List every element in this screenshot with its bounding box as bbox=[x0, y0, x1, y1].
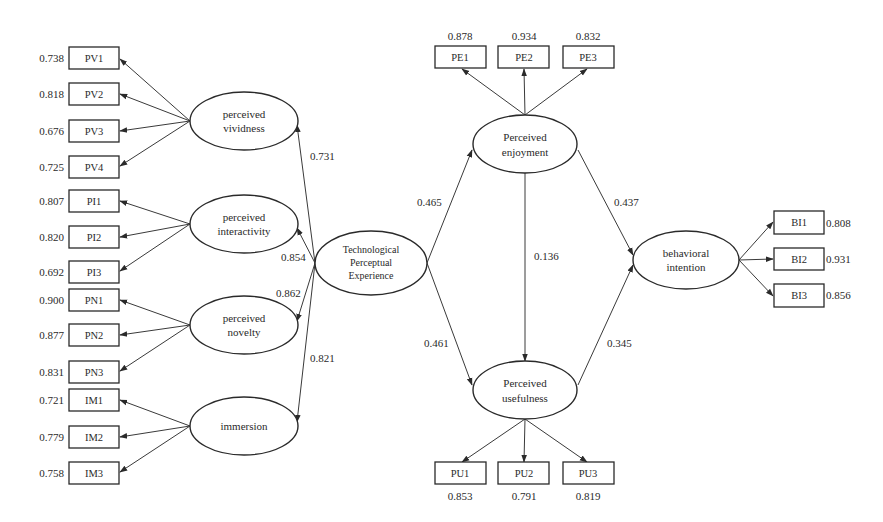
loading-value-bi1: 0.808 bbox=[826, 217, 851, 229]
coef-tpe-im: 0.821 bbox=[310, 352, 335, 364]
loading-value-pn2: 0.877 bbox=[39, 329, 64, 341]
coef-tpe-pu: 0.461 bbox=[424, 337, 449, 349]
coef-pe-pu: 0.136 bbox=[534, 250, 559, 262]
loading-arrow-pe1 bbox=[462, 69, 525, 115]
path-arrow-pu-bi bbox=[578, 265, 633, 385]
latent-label-pv-line2: vividness bbox=[223, 122, 265, 134]
indicator-label-pi2: PI2 bbox=[87, 232, 102, 243]
loading-arrow-im2 bbox=[120, 426, 190, 437]
indicator-label-pn2: PN2 bbox=[85, 330, 104, 341]
coef-tpe-pv: 0.731 bbox=[310, 150, 335, 162]
indicator-label-pv1: PV1 bbox=[85, 53, 104, 64]
latent-label-tpe-line1: Technological bbox=[343, 244, 400, 255]
coef-tpe-pn: 0.862 bbox=[276, 287, 301, 299]
latent-bi: behavioral intention bbox=[633, 231, 739, 289]
loading-value-bi2: 0.931 bbox=[826, 253, 851, 265]
latent-ellipse-pn bbox=[190, 296, 298, 354]
loading-value-pn3: 0.831 bbox=[39, 366, 64, 378]
latent-label-pu-line1: Perceived bbox=[503, 377, 547, 389]
indicators-pv: PV1 0.738 PV2 0.818 PV3 0.676 PV4 0.725 bbox=[39, 47, 119, 178]
coef-pe-bi: 0.437 bbox=[614, 196, 639, 208]
loading-value-pe3: 0.832 bbox=[576, 30, 601, 42]
indicators-pi: PI1 0.807 PI2 0.820 PI3 0.692 bbox=[39, 190, 119, 283]
indicators-pe: 0.878 PE1 0.934 PE2 0.832 PE3 bbox=[435, 30, 614, 68]
latent-label-tpe-line3: Experience bbox=[349, 270, 395, 281]
loading-arrow-pv4 bbox=[120, 121, 190, 166]
loading-arrow-pe2 bbox=[524, 69, 525, 115]
latent-label-pe-line2: enjoyment bbox=[502, 146, 548, 158]
loading-value-pu1: 0.853 bbox=[448, 490, 473, 502]
loading-value-pv3: 0.676 bbox=[39, 125, 64, 137]
loading-arrow-pv1 bbox=[120, 59, 190, 121]
loading-value-pe2: 0.934 bbox=[512, 30, 537, 42]
loading-value-pi2: 0.820 bbox=[39, 231, 64, 243]
indicator-label-pi3: PI3 bbox=[87, 267, 102, 278]
loading-value-im1: 0.721 bbox=[39, 394, 64, 406]
loading-arrow-bi3 bbox=[739, 260, 773, 296]
loading-value-im2: 0.779 bbox=[39, 431, 64, 443]
indicator-label-pv2: PV2 bbox=[85, 89, 104, 100]
latent-label-pi-line1: perceived bbox=[223, 211, 266, 223]
loading-arrow-pv3 bbox=[120, 121, 190, 131]
latent-pu: Perceived usefulness bbox=[473, 361, 577, 419]
loading-arrow-bi1 bbox=[739, 222, 773, 260]
indicator-label-bi2: BI2 bbox=[791, 254, 807, 265]
latent-label-pv-line1: perceived bbox=[223, 108, 266, 120]
loading-value-pv1: 0.738 bbox=[39, 52, 64, 64]
indicator-label-bi3: BI3 bbox=[791, 290, 807, 301]
latent-pi: perceived interactivity bbox=[190, 195, 298, 253]
loading-arrow-pn3 bbox=[120, 325, 190, 371]
latent-pe: Perceived enjoyment bbox=[473, 115, 577, 173]
indicator-label-im2: IM2 bbox=[85, 432, 103, 443]
loading-arrow-pi1 bbox=[120, 201, 190, 224]
loading-arrow-pn1 bbox=[120, 300, 190, 325]
latent-label-pi-line2: interactivity bbox=[217, 225, 271, 237]
indicator-label-im3: IM3 bbox=[85, 468, 103, 479]
loading-arrow-im1 bbox=[120, 400, 190, 426]
latent-label-bi-line1: behavioral bbox=[663, 247, 709, 259]
indicator-label-pn1: PN1 bbox=[85, 295, 104, 306]
latent-ellipse-pu bbox=[473, 361, 577, 419]
loading-value-pv2: 0.818 bbox=[39, 88, 64, 100]
latent-ellipse-pi bbox=[190, 195, 298, 253]
indicator-label-pe3: PE3 bbox=[579, 52, 597, 63]
indicator-label-pv4: PV4 bbox=[85, 162, 104, 173]
latent-pn: perceived novelty bbox=[190, 296, 298, 354]
loading-arrow-bi2 bbox=[739, 259, 773, 260]
indicator-label-pe1: PE1 bbox=[451, 52, 469, 63]
latent-im: immersion bbox=[190, 397, 298, 455]
latent-ellipse-pv bbox=[190, 92, 298, 150]
loading-arrow-pv2 bbox=[120, 94, 190, 121]
loading-value-pu2: 0.791 bbox=[512, 490, 537, 502]
loading-arrow-pu3 bbox=[525, 419, 587, 462]
indicators-pu: PU1 0.853 PU2 0.791 PU3 0.819 bbox=[435, 462, 614, 502]
loading-value-pu3: 0.819 bbox=[576, 490, 601, 502]
loading-value-im3: 0.758 bbox=[39, 467, 64, 479]
loading-value-pi3: 0.692 bbox=[39, 266, 64, 278]
latent-pv: perceived vividness bbox=[190, 92, 298, 150]
latent-ellipse-bi bbox=[633, 231, 739, 289]
indicator-label-pu3: PU3 bbox=[579, 468, 598, 479]
indicator-label-pe2: PE2 bbox=[515, 52, 533, 63]
loading-value-pv4: 0.725 bbox=[39, 161, 64, 173]
latent-label-pe-line1: Perceived bbox=[503, 131, 547, 143]
loading-arrow-pu1 bbox=[462, 419, 525, 462]
loading-value-pe1: 0.878 bbox=[448, 30, 473, 42]
indicator-label-im1: IM1 bbox=[85, 395, 103, 406]
latent-label-pu-line2: usefulness bbox=[502, 392, 548, 404]
loading-arrow-im3 bbox=[120, 426, 190, 472]
indicators-bi: BI1 0.808 BI2 0.931 BI3 0.856 bbox=[774, 211, 851, 307]
latent-label-bi-line2: intention bbox=[666, 261, 706, 273]
indicator-label-bi1: BI1 bbox=[791, 217, 807, 228]
sem-diagram: PV1 0.738 PV2 0.818 PV3 0.676 PV4 0.725 … bbox=[0, 0, 883, 522]
coef-tpe-pi: 0.854 bbox=[281, 251, 306, 263]
indicator-label-pu2: PU2 bbox=[515, 468, 534, 479]
latent-ellipse-pe bbox=[473, 115, 577, 173]
indicator-label-pi1: PI1 bbox=[87, 196, 102, 207]
loading-value-pi1: 0.807 bbox=[39, 195, 64, 207]
coef-pu-bi: 0.345 bbox=[607, 337, 632, 349]
loading-value-pn1: 0.900 bbox=[39, 294, 64, 306]
latent-label-pn-line1: perceived bbox=[223, 312, 266, 324]
latent-label-tpe-line2: Perceptual bbox=[350, 257, 392, 268]
loading-arrow-pn2 bbox=[120, 325, 190, 335]
